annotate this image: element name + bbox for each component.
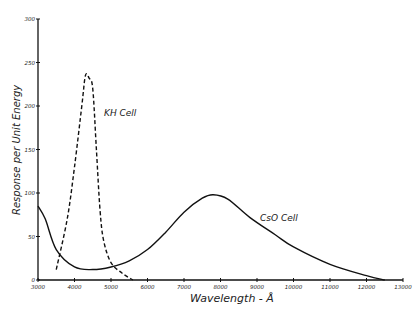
y-tick-label: 200: [25, 103, 36, 109]
x-tick-label: 11000: [321, 284, 339, 290]
x-tick-label: 3000: [31, 284, 45, 290]
axes: [38, 19, 403, 280]
kh-cell-label: KH Cell: [104, 108, 137, 118]
x-tick-label: 5000: [104, 284, 118, 290]
y-tick-label: 150: [25, 147, 36, 153]
y-tick-label: 250: [25, 60, 36, 66]
x-tick-label: 8000: [214, 284, 228, 290]
series: [38, 74, 385, 280]
x-tick-label: 4000: [68, 284, 82, 290]
y-tick-label: 0: [32, 277, 36, 283]
y-axis-label: Response per Unit Energy: [11, 84, 22, 215]
x-tick-label: 9000: [250, 284, 264, 290]
kh-cell-curve: [56, 74, 133, 280]
x-tick-label: 13000: [394, 284, 412, 290]
cso-cell-curve: [38, 195, 385, 280]
x-tick-label: 7000: [177, 284, 191, 290]
x-tick-label: 10000: [285, 284, 303, 290]
cso-cell-label: CsO Cell: [260, 213, 298, 223]
x-tick-label: 6000: [141, 284, 155, 290]
y-tick-label: 50: [28, 234, 35, 240]
y-tick-label: 300: [25, 16, 36, 22]
x-axis-label: Wavelength - Å: [190, 292, 274, 305]
x-tick-label: 12000: [358, 284, 376, 290]
ticks: 0501001502002503003000400050006000700080…: [25, 16, 413, 290]
y-tick-label: 100: [25, 190, 36, 196]
spectral-response-chart: 0501001502002503003000400050006000700080…: [0, 0, 414, 312]
